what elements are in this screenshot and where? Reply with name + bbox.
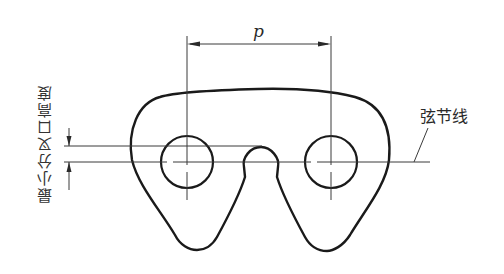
pitch-label: p (253, 21, 264, 41)
right-arrowhead-icon (318, 42, 331, 47)
chord-line-label: 弦节线 (420, 107, 468, 126)
left-arrowhead-icon (187, 42, 200, 47)
chain-link-diagram: p 弦节线 (0, 0, 504, 274)
down-arrowhead-icon (67, 136, 72, 146)
up-arrowhead-icon (67, 162, 72, 172)
link-outline (131, 89, 390, 251)
chord-line-leader (414, 128, 428, 162)
